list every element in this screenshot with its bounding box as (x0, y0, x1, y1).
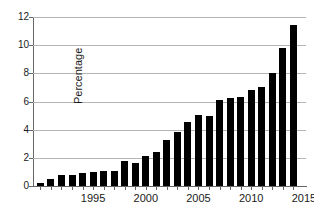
x-tick-mark (83, 187, 84, 190)
x-tick-mark (135, 187, 136, 190)
x-tick-mark (51, 187, 52, 190)
x-tick-mark (251, 187, 252, 190)
x-tick-mark (146, 187, 147, 190)
bar (132, 163, 139, 186)
bar (100, 171, 107, 186)
bar (269, 73, 276, 186)
bar (184, 122, 191, 186)
x-tick-mark (93, 187, 94, 190)
bar-chart: 024681012 19952000200520102015 Percentag… (0, 0, 314, 220)
y-tick-label: 6 (3, 97, 29, 107)
x-tick-mark (293, 187, 294, 190)
bar (279, 48, 286, 186)
x-tick-mark (241, 187, 242, 190)
x-tick-mark (262, 187, 263, 190)
x-tick-mark (156, 187, 157, 190)
bar (90, 172, 97, 186)
x-tick-label: 2010 (231, 192, 271, 205)
x-tick-mark (104, 187, 105, 190)
y-tick-label: 10 (3, 40, 29, 50)
y-axis-title: Percentage (72, 48, 84, 104)
y-tick-label: 2 (3, 153, 29, 163)
x-tick-mark (220, 187, 221, 190)
bar (248, 90, 255, 186)
x-tick-mark (272, 187, 273, 190)
bar (121, 161, 128, 186)
x-tick-mark (72, 187, 73, 190)
x-tick-mark (230, 187, 231, 190)
bar (153, 152, 160, 187)
x-tick-mark (125, 187, 126, 190)
gridline (33, 45, 306, 46)
x-tick-mark (177, 187, 178, 190)
y-tick-label: 12 (3, 12, 29, 22)
bar (174, 132, 181, 186)
bar (111, 171, 118, 186)
x-tick-mark (188, 187, 189, 190)
y-axis-ticks: 024681012 (0, 0, 29, 220)
x-tick-mark (114, 187, 115, 190)
bar (258, 87, 265, 186)
x-axis-line (33, 186, 307, 187)
bar (227, 98, 234, 186)
x-tick-mark (167, 187, 168, 190)
bar (206, 116, 213, 186)
bar (142, 156, 149, 186)
bar (216, 100, 223, 186)
x-tick-label: 2000 (126, 192, 166, 205)
bar (195, 115, 202, 186)
x-tick-label: 2015 (284, 192, 314, 205)
bar (163, 140, 170, 186)
bar (47, 179, 54, 186)
gridline (33, 17, 306, 18)
x-tick-mark (61, 187, 62, 190)
x-tick-label: 2005 (178, 192, 218, 205)
bar (290, 25, 297, 186)
y-tick-label: 0 (3, 181, 29, 191)
x-tick-mark (209, 187, 210, 190)
x-tick-label: 1995 (73, 192, 113, 205)
bar (69, 175, 76, 186)
bar (79, 173, 86, 186)
y-tick-label: 4 (3, 125, 29, 135)
x-tick-mark (40, 187, 41, 190)
bar (58, 175, 65, 186)
y-tick-label: 8 (3, 68, 29, 78)
x-tick-mark (283, 187, 284, 190)
bar (237, 97, 244, 186)
x-tick-mark (198, 187, 199, 190)
